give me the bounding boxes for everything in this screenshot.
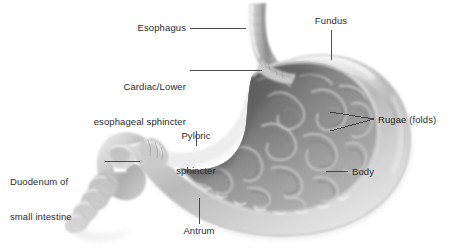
- label-cardiac-line-1: Cardiac/Lower: [94, 81, 186, 93]
- label-duodenum-line-1: Duodenum of: [10, 176, 72, 188]
- label-pyloric-sphincter: Pyloric sphincter: [176, 107, 215, 199]
- label-pyloric-line-1: Pyloric: [176, 130, 215, 142]
- label-duodenum-of-small-intestine: Duodenum of small intestine: [10, 153, 72, 245]
- label-duodenum-line-2: small intestine: [10, 211, 72, 223]
- label-rugae-folds: Rugae (folds): [378, 114, 436, 126]
- label-body: Body: [352, 166, 374, 178]
- label-cardiac-lower-esophageal-sphincter: Cardiac/Lower esophageal sphincter: [94, 58, 186, 150]
- label-esophagus: Esophagus: [138, 22, 186, 34]
- label-pyloric-line-2: sphincter: [176, 165, 215, 177]
- stomach-anatomy-figure: Esophagus Cardiac/Lower esophageal sphin…: [0, 0, 460, 250]
- label-antrum: Antrum: [183, 225, 214, 237]
- label-fundus: Fundus: [315, 15, 347, 27]
- label-cardiac-line-2: esophageal sphincter: [94, 116, 186, 128]
